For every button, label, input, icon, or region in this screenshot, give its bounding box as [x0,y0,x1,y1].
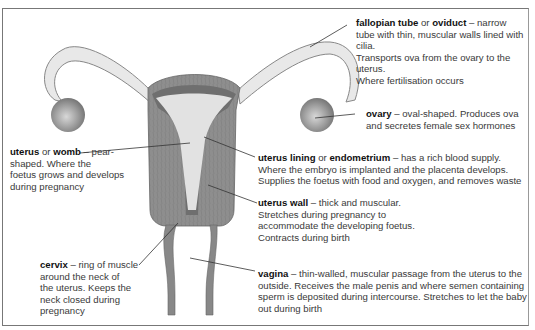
desc-lead: – pear- [81,146,114,157]
fallopian-tube-right [238,42,359,104]
label-uterus-lining: uterus lining or endometrium – has a ric… [258,152,521,187]
ovary-left [51,98,85,132]
term-cervix: cervix [40,259,68,270]
desc-lead: – thick and muscular. [308,197,401,208]
label-ovary: ovary – oval-shaped. Produces ova and se… [366,108,519,131]
label-cervix: cervix – ring of muscle around the neck … [40,259,138,317]
term-oviduct: oviduct [432,17,466,28]
uterus [148,75,240,227]
fallopian-tube-left [45,47,152,104]
term-endometrium: endometrium [329,152,390,163]
term-uterus-lining: uterus lining [258,152,316,163]
term-fallopian-tube: fallopian tube [356,17,418,28]
term-womb: womb [53,146,81,157]
desc-lead: – thin-walled, muscular passage from the… [288,268,522,279]
desc-line: Contracts during birth [258,232,415,244]
desc-line: the uterus. Keeps the [40,282,138,294]
desc-line: shaped. Where the [10,158,124,170]
label-uterus-wall: uterus wall – thick and muscular. Stretc… [258,197,415,243]
term-uterus-wall: uterus wall [258,197,308,208]
label-uterus: uterus or womb – pear- shaped. Where the… [10,146,124,192]
or-text: or [418,17,432,28]
desc-line: foetus grows and develops [10,169,124,181]
or-text: or [39,146,53,157]
desc-line: tube with thin, muscular walls lined wit… [356,29,535,52]
desc-line: accommodate the developing foetus. [258,220,415,232]
desc-lead: – narrow [466,17,506,28]
ovary-right [300,98,334,132]
desc-line: outside. Receives the male penis and whe… [258,280,527,292]
or-text: or [316,152,330,163]
label-fallopian-tube: fallopian tube or oviduct – narrow tube … [356,17,535,87]
desc-line: sperm is deposited during intercourse. S… [258,291,527,303]
desc-line: pregnancy [40,305,138,317]
desc-line: Stretches during pregnancy to [258,209,415,221]
desc-line: Where the embryo is implanted and the pl… [258,164,521,176]
desc-line: around the neck of [40,271,138,283]
desc-line: and secretes female sex hormones [366,120,519,132]
desc-lead: – has a rich blood supply. [390,152,501,163]
desc-line: Supplies the foetus with food and oxygen… [258,175,521,187]
desc-line: Transports ova from the ovary to the ute… [356,52,535,75]
desc-line: neck closed during [40,294,138,306]
vagina [164,225,217,315]
desc-line: Where fertilisation occurs [356,75,535,87]
desc-lead: – oval-shaped. Produces ova [392,108,519,119]
desc-line: out during birth [258,303,527,315]
label-vagina: vagina – thin-walled, muscular passage f… [258,268,527,314]
term-ovary: ovary [366,108,392,119]
term-uterus: uterus [10,146,39,157]
desc-line: during pregnancy [10,181,124,193]
desc-lead: – ring of muscle [68,259,138,270]
term-vagina: vagina [258,268,288,279]
